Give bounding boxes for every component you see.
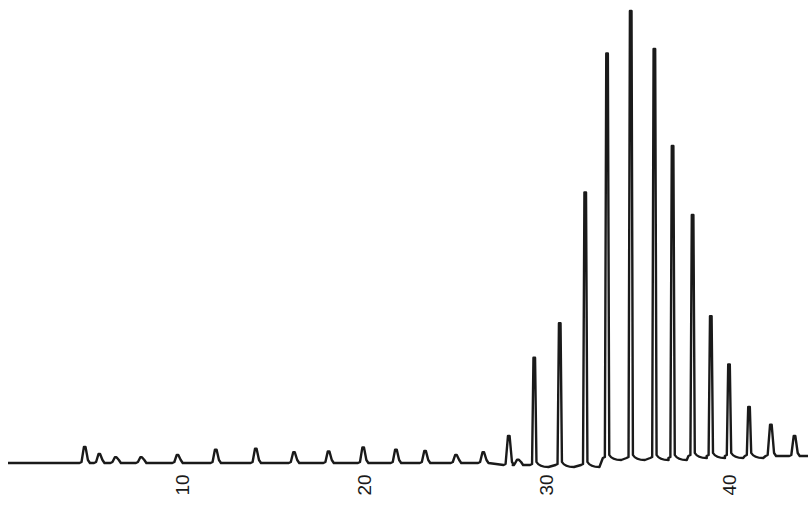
- x-tick-label-30: 30: [532, 470, 562, 500]
- x-tick-label-10: 10: [168, 470, 198, 500]
- chromatogram-plot: [0, 0, 808, 519]
- x-tick-label-20: 20: [350, 470, 380, 500]
- x-tick-label-40: 40: [715, 470, 745, 500]
- chromatogram-trace: [8, 11, 808, 467]
